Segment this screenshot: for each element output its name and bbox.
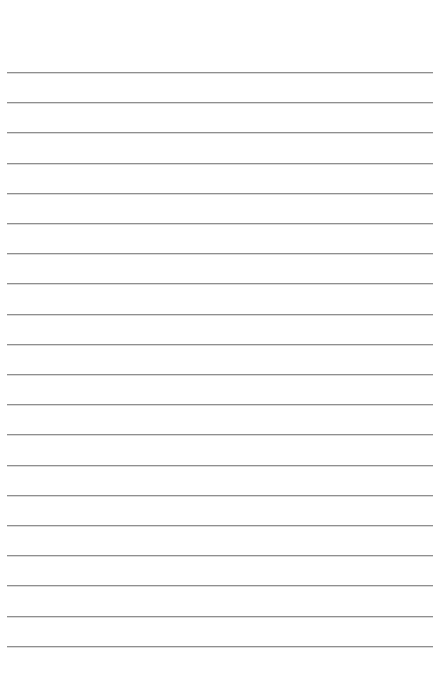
ruled-line xyxy=(7,525,433,526)
lined-page xyxy=(0,0,435,687)
ruled-line xyxy=(7,253,433,254)
ruled-line xyxy=(7,585,433,586)
ruled-line xyxy=(7,193,433,194)
ruled-line xyxy=(7,404,433,405)
ruled-line xyxy=(7,283,433,284)
ruled-line xyxy=(7,163,433,164)
ruled-line xyxy=(7,132,433,133)
ruled-line xyxy=(7,646,433,647)
ruled-line xyxy=(7,72,433,73)
ruled-line xyxy=(7,223,433,224)
ruled-line xyxy=(7,344,433,345)
ruled-line xyxy=(7,434,433,435)
ruled-line xyxy=(7,495,433,496)
ruled-line xyxy=(7,314,433,315)
ruled-line xyxy=(7,616,433,617)
ruled-line xyxy=(7,465,433,466)
ruled-line xyxy=(7,555,433,556)
ruled-line xyxy=(7,102,433,103)
ruled-line xyxy=(7,374,433,375)
